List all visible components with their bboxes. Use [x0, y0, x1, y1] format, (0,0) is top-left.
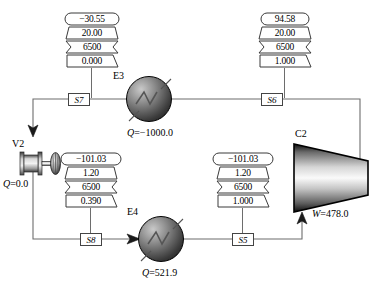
stream-cell-pressure: 20.00	[61, 26, 123, 40]
line-s7-to-v2	[33, 99, 68, 133]
value-temperature: −101.03	[76, 154, 106, 164]
stream-label-s8[interactable]: S8	[80, 233, 102, 246]
stream-cell-pressure: 1.20	[60, 166, 122, 180]
stream-cell-vapor-fraction: 1.000	[254, 54, 316, 68]
value-vapor-fraction: 0.000	[82, 56, 102, 66]
process-flow-diagram: −30.55 20.00 6500 0.000 94.58	[0, 0, 377, 286]
value-pressure: 1.20	[235, 168, 251, 178]
stream-cell-vapor-fraction: 0.000	[61, 54, 123, 68]
heat-exchanger-e4-duty: Q=521.9	[142, 267, 177, 278]
stream-cell-pressure: 1.20	[212, 166, 274, 180]
stream-cell-vapor-fraction: 1.000	[212, 194, 274, 208]
work-value: =478.0	[320, 208, 348, 219]
stream-block-s6: 94.58 20.00 6500 1.000	[254, 12, 316, 68]
duty-value: =521.9	[149, 267, 177, 278]
value-temperature: −30.55	[79, 14, 105, 24]
heat-exchanger-e4-label: E4	[127, 206, 138, 217]
stream-cell-temperature: −101.03	[212, 152, 274, 166]
valve-v2-duty: Q=0.0	[3, 178, 28, 189]
heat-exchanger-e4-icon[interactable]	[138, 216, 184, 262]
value-pressure: 20.00	[275, 28, 295, 38]
compressor-c2-label: C2	[295, 128, 307, 139]
stream-block-s8: −101.03 1.20 6500 0.390	[60, 152, 122, 208]
stream-cell-temperature: −30.55	[61, 12, 123, 26]
stream-cell-flow: 6500	[60, 180, 122, 194]
stream-cell-pressure: 20.00	[254, 26, 316, 40]
stream-cell-vapor-fraction: 0.390	[60, 194, 122, 208]
value-flow: 6500	[276, 42, 294, 52]
value-flow: 6500	[82, 182, 100, 192]
value-temperature: −101.03	[228, 154, 258, 164]
value-flow: 6500	[234, 182, 252, 192]
heat-exchanger-e3-duty: Q=−1000.0	[127, 127, 173, 138]
line-s5-to-c2	[254, 216, 302, 239]
stream-block-stub	[90, 208, 91, 234]
stream-block-s5: −101.03 1.20 6500 1.000	[212, 152, 274, 208]
stream-block-s7: −30.55 20.00 6500 0.000	[61, 12, 123, 68]
stream-cell-temperature: 94.58	[254, 12, 316, 26]
heat-exchanger-e3-label: E3	[113, 70, 124, 81]
compressor-c2-work: W=478.0	[312, 208, 348, 219]
stream-cell-temperature: −101.03	[60, 152, 122, 166]
stream-cell-flow: 6500	[61, 40, 123, 54]
value-vapor-fraction: 1.000	[233, 196, 253, 206]
stream-label-s7[interactable]: S7	[68, 93, 90, 106]
stream-cell-flow: 6500	[254, 40, 316, 54]
value-vapor-fraction: 0.390	[81, 196, 101, 206]
stream-label-s5[interactable]: S5	[232, 233, 254, 246]
value-pressure: 1.20	[83, 168, 99, 178]
value-flow: 6500	[83, 42, 101, 52]
stream-block-stub	[91, 68, 92, 98]
stream-block-stub	[284, 68, 285, 98]
valve-v2-label: V2	[12, 138, 24, 149]
duty-value: =0.0	[10, 178, 28, 189]
heat-exchanger-e3-icon[interactable]	[126, 76, 172, 122]
value-vapor-fraction: 1.000	[275, 56, 295, 66]
compressor-c2-icon[interactable]	[292, 142, 372, 218]
value-pressure: 20.00	[82, 28, 102, 38]
stream-label-s6[interactable]: S6	[261, 93, 283, 106]
stream-block-stub	[242, 208, 243, 234]
value-temperature: 94.58	[275, 14, 295, 24]
stream-cell-flow: 6500	[212, 180, 274, 194]
duty-value: =−1000.0	[134, 127, 173, 138]
